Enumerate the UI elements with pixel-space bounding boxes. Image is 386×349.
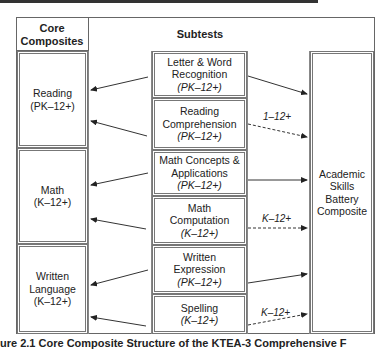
arrow-rc-to-reading bbox=[91, 121, 147, 136]
arrow-mc-to-math bbox=[91, 219, 146, 229]
arrow-lwr-to-reading bbox=[91, 77, 148, 90]
arrow-label-spelling: K–12+ bbox=[261, 307, 290, 318]
arrow-label-mcomp: K–12+ bbox=[262, 213, 291, 224]
arrow-we-to-battery bbox=[248, 274, 307, 283]
arrow-lwr-to-battery bbox=[248, 76, 307, 94]
arrow-we-to-wl bbox=[91, 270, 148, 285]
arrow-mca-to-math bbox=[91, 173, 148, 185]
figure-caption: ure 2.1 Core Composite Structure of the … bbox=[0, 337, 386, 349]
arrow-sp-to-wl bbox=[91, 317, 146, 326]
arrow-rc-to-battery bbox=[248, 124, 307, 137]
arrow-label-rc: 1–12+ bbox=[263, 111, 291, 122]
